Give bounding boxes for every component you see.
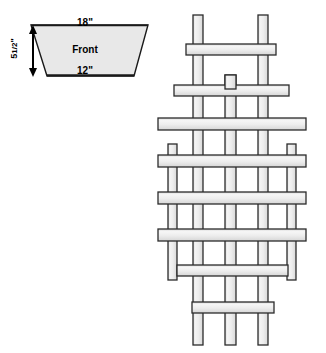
horizontal-rail-h6	[158, 229, 306, 241]
vertical-slats	[168, 15, 296, 345]
bottom-width-label: 12"	[0, 66, 170, 76]
horizontal-rail-h3	[158, 118, 306, 130]
height-fraction: 1/2	[10, 43, 19, 54]
figure-canvas: 18" Front 12" 51/2"	[0, 0, 326, 353]
front-face-label: Front	[0, 45, 170, 55]
vertical-slat-v2	[193, 15, 203, 345]
horizontal-rail-h7	[177, 265, 288, 276]
horizontal-rail-h5	[158, 192, 306, 204]
height-whole-number: 5	[9, 54, 19, 59]
height-dimension-label: 51/2"	[10, 29, 19, 69]
height-unit: "	[9, 38, 19, 42]
lattice-trellis-group	[158, 15, 306, 345]
center-stub-slat	[225, 75, 236, 89]
horizontal-rail-h4	[158, 155, 306, 167]
vertical-slat-v4	[258, 15, 268, 345]
top-width-label: 18"	[0, 18, 170, 28]
horizontal-rail-h1	[186, 44, 276, 55]
horizontal-rail-h8	[192, 302, 274, 313]
